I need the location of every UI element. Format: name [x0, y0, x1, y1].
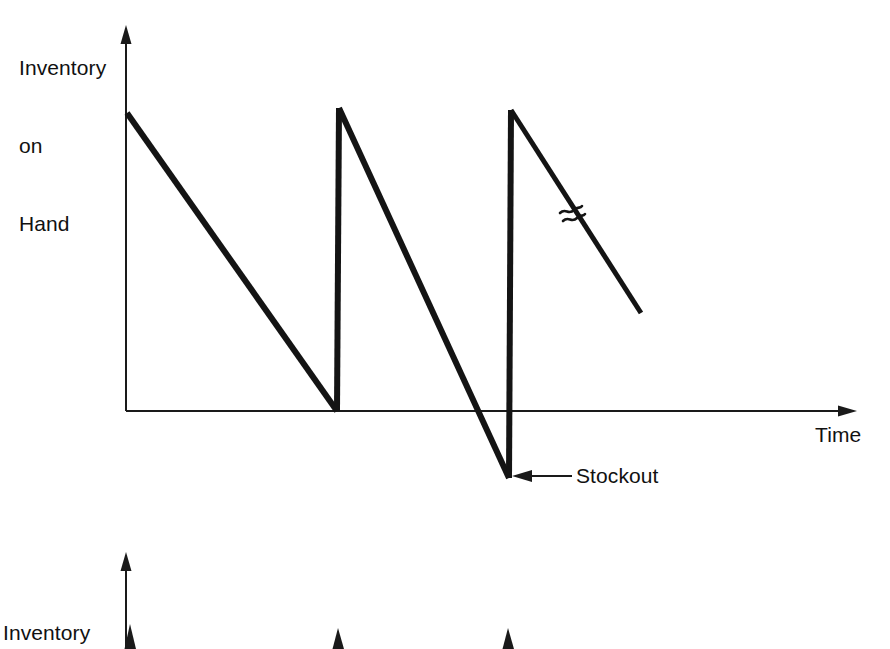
replenishment-riser-cycle-3 [509, 110, 511, 478]
depletion-line-cycle-2 [339, 108, 509, 478]
lower-chart-group [121, 552, 515, 649]
lower-series-arrow-2 [333, 628, 345, 649]
lower-series-arrow-3 [503, 628, 515, 649]
x-axis-arrowhead [838, 406, 857, 417]
y-axis-label-line-3: Hand [19, 211, 106, 237]
y-axis-label-line-2: on [19, 133, 106, 159]
replenishment-riser-cycle-2 [337, 108, 339, 411]
y-axis-label: Inventory on Hand [19, 3, 106, 289]
figure-root: Inventory on Hand Time Stockout Inventor… [0, 0, 890, 649]
upper-chart-group [121, 25, 858, 482]
stockout-callout-arrow [512, 470, 572, 482]
depletion-line-cycle-3 [511, 110, 641, 313]
inventory-sawtooth-chart [0, 0, 890, 649]
depletion-line-cycle-1 [127, 113, 337, 411]
y-axis-label-line-1: Inventory [19, 55, 106, 81]
y-axis-arrowhead [121, 25, 132, 44]
lower-y-axis-label: Inventory [3, 620, 90, 646]
x-axis-label: Time [815, 422, 861, 448]
lower-y-axis-arrowhead [121, 552, 132, 571]
stockout-annotation-label: Stockout [576, 463, 659, 489]
